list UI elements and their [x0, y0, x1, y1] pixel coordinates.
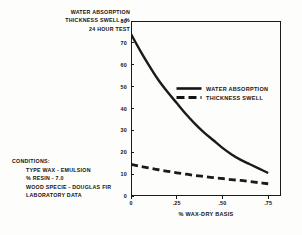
series-thickness-swell: [131, 164, 268, 183]
chart-screenshot: WATER ABSORPTION THICKNESS SWELL - % 24 …: [0, 0, 302, 235]
y-tick-mark: [131, 152, 134, 153]
x-tick-label: .25: [173, 200, 181, 206]
y-tick-label: 80: [111, 18, 127, 24]
x-axis-title: % WAX-DRY BASIS: [179, 211, 234, 217]
y-tick-label: 0: [111, 193, 127, 199]
x-tick-mark: [131, 196, 132, 199]
condition-type-wax: TYPE WAX - EMULSION: [26, 166, 111, 175]
series-water-absorption: [131, 34, 268, 173]
y-tick-label: 20: [111, 149, 127, 155]
y-tick-mark: [131, 130, 134, 131]
legend-item-thickness-swell: THICKNESS SWELL: [176, 93, 268, 102]
x-tick-label: 0: [129, 200, 132, 206]
y-tick-mark: [131, 64, 134, 65]
y-tick-mark: [131, 21, 134, 22]
y-tick-label: 60: [111, 62, 127, 68]
y-tick-mark: [131, 174, 134, 175]
y-tick-label: 10: [111, 171, 127, 177]
condition-percent-resin: % RESIN - 7.0: [26, 174, 111, 183]
y-tick-label: 70: [111, 40, 127, 46]
x-tick-label: .50: [218, 200, 226, 206]
y-tick-label: 30: [111, 127, 127, 133]
y-tick-mark: [131, 86, 134, 87]
chart-title-line-1: WATER ABSORPTION: [56, 8, 130, 16]
plot-area: [131, 21, 281, 196]
legend-label-water-absorption: WATER ABSORPTION: [206, 86, 268, 92]
data-curves: [131, 21, 281, 196]
chart-title-line-3: 24 HOUR TEST: [56, 25, 130, 33]
conditions-heading: CONDITIONS:: [12, 157, 111, 166]
y-tick-label: 40: [111, 106, 127, 112]
legend-swatch-solid: [176, 84, 202, 93]
y-tick-label: 50: [111, 84, 127, 90]
x-tick-label: .75: [264, 200, 272, 206]
legend-swatch-dashed: [176, 93, 202, 102]
y-tick-mark: [131, 42, 134, 43]
y-tick-mark: [131, 108, 134, 109]
legend: WATER ABSORPTION THICKNESS SWELL: [176, 84, 268, 102]
conditions-block: CONDITIONS: TYPE WAX - EMULSION % RESIN …: [12, 157, 111, 200]
condition-laboratory-data: LABORATORY DATA: [26, 191, 111, 200]
legend-item-water-absorption: WATER ABSORPTION: [176, 84, 268, 93]
x-tick-mark: [268, 196, 269, 199]
x-tick-mark: [176, 196, 177, 199]
x-tick-mark: [222, 196, 223, 199]
condition-wood-specie: WOOD SPECIE - DOUGLAS FIR: [26, 183, 111, 192]
legend-label-thickness-swell: THICKNESS SWELL: [206, 95, 263, 101]
